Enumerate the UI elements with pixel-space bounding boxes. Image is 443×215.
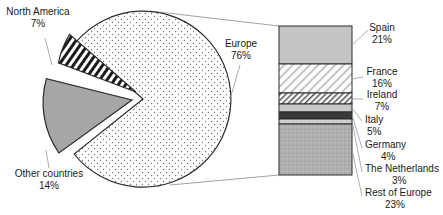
label-netherlands-name: The Netherlands: [365, 163, 439, 174]
label-north-america-pct: 7%: [31, 18, 46, 29]
label-rest-of-europe-pct: 23%: [385, 199, 405, 210]
pie-of-pie-chart: North America 7% Other countries 14% Eur…: [0, 0, 443, 215]
bar-segment-france: [279, 64, 352, 93]
bar-segment-italy: [279, 104, 352, 112]
label-italy-name: Italy: [365, 114, 383, 125]
label-france-name: France: [366, 66, 398, 77]
label-ireland-name: Ireland: [367, 89, 398, 100]
label-europe-name: Europe: [225, 38, 258, 49]
label-germany-name: Germany: [365, 139, 406, 150]
label-other-countries-pct: 14%: [39, 180, 59, 191]
label-north-america-name: North America: [6, 6, 70, 17]
connector-line-bottom: [170, 175, 279, 185]
label-spain-name: Spain: [369, 22, 395, 33]
label-spain-pct: 21%: [372, 34, 392, 45]
label-europe-pct: 76%: [231, 50, 251, 61]
bar-segment-ireland: [279, 93, 352, 104]
label-ireland-pct: 7%: [375, 101, 390, 112]
bar-segment-rest-of-europe: [279, 124, 352, 175]
label-italy-pct: 5%: [367, 126, 382, 137]
label-rest-of-europe-name: Rest of Europe: [365, 187, 432, 198]
leader-north-america: [45, 38, 52, 65]
label-france-pct: 16%: [372, 78, 392, 89]
label-other-countries-name: Other countries: [15, 168, 83, 179]
label-germany-pct: 4%: [381, 151, 396, 162]
bar-segment-germany: [279, 112, 352, 119]
leader-europe: [230, 65, 240, 99]
leader-other-countries: [46, 150, 49, 168]
label-netherlands-pct: 3%: [392, 175, 407, 186]
bar-segment-spain: [279, 26, 352, 64]
stacked-bar-europe: [279, 26, 352, 175]
bar-segment-netherlands: [279, 119, 352, 124]
